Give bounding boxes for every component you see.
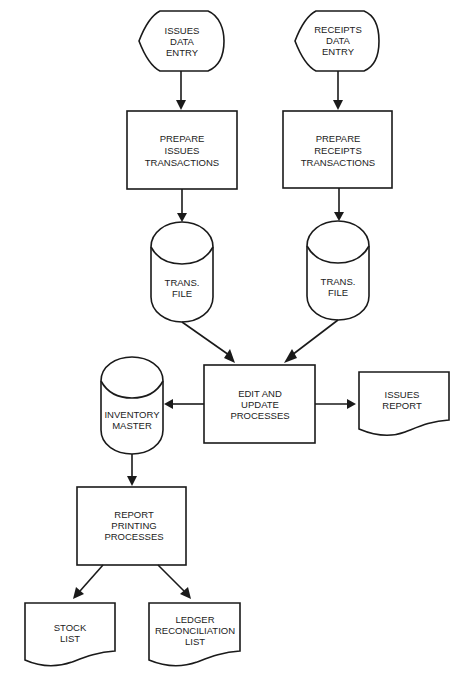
ledger-reconciliation-list-node: LEDGER RECONCILIATION LIST (149, 603, 240, 666)
arrow-edit-to-issues-report (315, 399, 356, 409)
node-label: DATA (170, 36, 195, 47)
node-label: PRINTING (111, 520, 156, 531)
node-label: LEDGER (175, 614, 214, 625)
node-label: ENTRY (166, 47, 199, 58)
node-label: LIST (185, 636, 205, 647)
node-label: TRANS. (321, 276, 356, 287)
arrow-prepare-receipts-to-trans-file (334, 188, 344, 221)
node-label: REPORT (114, 509, 154, 520)
node-label: LIST (60, 633, 80, 644)
prepare-issues-transactions-node: PREPARE ISSUES TRANSACTIONS (127, 111, 237, 189)
node-label: RECONCILIATION (155, 625, 235, 636)
node-label: PREPARE (160, 133, 205, 144)
arrow-report-printing-to-ledger-list (158, 565, 191, 599)
arrow-report-printing-to-stock-list (73, 565, 103, 599)
node-label: TRANSACTIONS (145, 157, 219, 168)
stock-list-node: STOCK LIST (25, 603, 115, 666)
arrow-receipts-entry-to-prepare (333, 71, 343, 110)
arrow-inventory-master-to-report-printing (127, 454, 137, 486)
node-label: TRANSACTIONS (301, 157, 375, 168)
node-label: REPORT (382, 400, 422, 411)
flowchart-canvas: ISSUES DATA ENTRY RECEIPTS DATA ENTRY PR… (0, 0, 467, 687)
issues-report-node: ISSUES REPORT (359, 372, 449, 435)
node-label: RECEIPTS (314, 145, 362, 156)
edit-and-update-processes-node: EDIT AND UPDATE PROCESSES (204, 365, 315, 443)
node-label: MASTER (112, 420, 152, 431)
inventory-master-node: INVENTORY MASTER (101, 357, 163, 454)
node-label: PROCESSES (230, 410, 289, 421)
node-label: RECEIPTS (314, 24, 362, 35)
node-label: TRANS. (165, 277, 200, 288)
node-label: FILE (172, 288, 192, 299)
arrow-trans-file-left-to-edit (182, 322, 235, 363)
prepare-receipts-transactions-node: PREPARE RECEIPTS TRANSACTIONS (283, 111, 392, 188)
node-label: EDIT AND (238, 388, 282, 399)
report-printing-processes-node: REPORT PRINTING PROCESSES (77, 487, 186, 565)
node-label: PROCESSES (104, 531, 163, 542)
arrow-edit-to-inventory-master (164, 399, 204, 409)
node-label: ISSUES (385, 389, 420, 400)
arrow-trans-file-right-to-edit (284, 320, 338, 363)
node-label: ISSUES (165, 25, 200, 36)
arrow-prepare-issues-to-trans-file (177, 189, 187, 222)
arrow-issues-entry-to-prepare (176, 71, 186, 110)
node-label: ENTRY (322, 46, 355, 57)
node-label: FILE (328, 287, 348, 298)
receipts-data-entry-node: RECEIPTS DATA ENTRY (295, 11, 379, 71)
node-label: DATA (326, 35, 351, 46)
trans-file-right-node: TRANS. FILE (307, 221, 369, 320)
node-label: STOCK (54, 622, 87, 633)
node-label: ISSUES (165, 145, 200, 156)
node-label: INVENTORY (104, 409, 160, 420)
issues-data-entry-node: ISSUES DATA ENTRY (139, 11, 224, 71)
node-label: UPDATE (241, 399, 279, 410)
trans-file-left-node: TRANS. FILE (151, 222, 213, 322)
node-label: PREPARE (316, 133, 361, 144)
